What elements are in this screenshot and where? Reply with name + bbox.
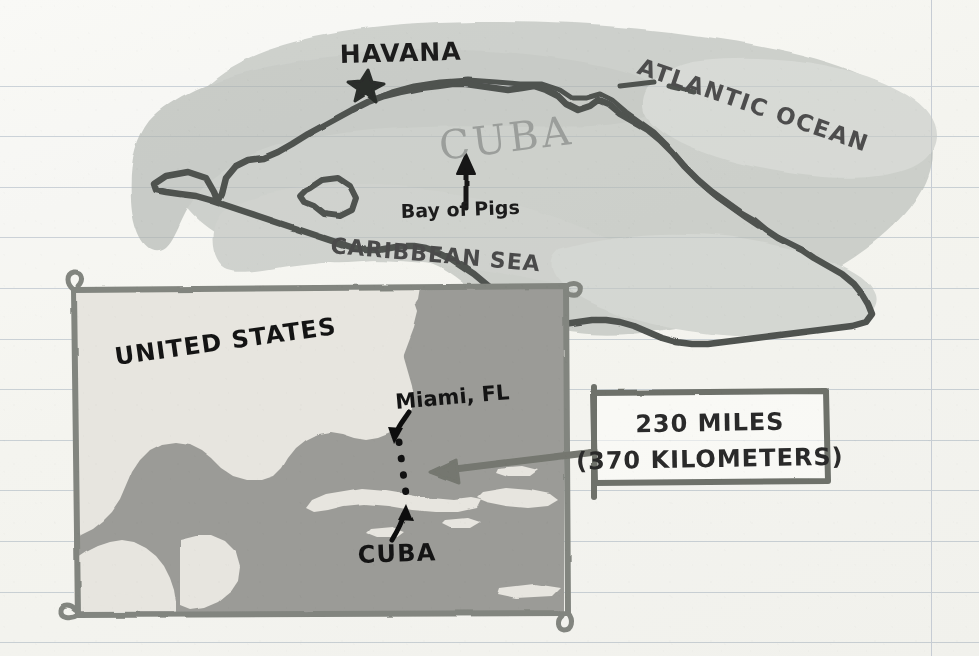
callout-layer[interactable]: 230 MILES (370 KILOMETERS) <box>0 0 979 656</box>
notebook-page: HAVANA CUBA ATLANTIC OCEAN CARIBBEAN SEA… <box>0 0 979 656</box>
callout-box[interactable] <box>593 387 828 497</box>
callout-line-1: 230 MILES <box>635 408 785 439</box>
callout-line-2: (370 KILOMETERS) <box>576 443 844 476</box>
callout-arrow <box>430 452 595 483</box>
